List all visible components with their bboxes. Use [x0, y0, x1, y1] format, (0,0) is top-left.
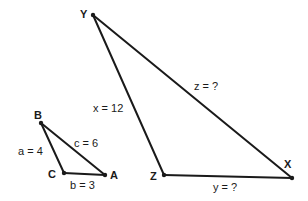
vertex-a-label: A [110, 169, 118, 181]
side-y-label: y = ? [213, 181, 237, 193]
side-b [64, 173, 105, 175]
vertex-c-dot [62, 171, 66, 175]
vertex-c-label: C [48, 168, 56, 180]
side-a [41, 123, 64, 173]
vertex-x-label: X [284, 158, 292, 170]
small-triangle: B C A a = 4 b = 3 c = 6 [18, 109, 118, 191]
side-z [93, 15, 292, 178]
side-b-label: b = 3 [70, 179, 95, 191]
vertex-z-label: Z [150, 170, 157, 182]
large-triangle: Y Z X x = 12 y = ? z = ? [80, 8, 294, 193]
side-x [93, 15, 164, 175]
side-a-label: a = 4 [18, 145, 43, 157]
vertex-y-dot [91, 13, 95, 17]
vertex-z-dot [162, 173, 166, 177]
vertex-a-dot [103, 173, 107, 177]
side-c-label: c = 6 [74, 137, 98, 149]
similar-triangles-diagram: B C A a = 4 b = 3 c = 6 Y Z X x = 12 y =… [0, 0, 308, 201]
vertex-b-label: B [34, 109, 42, 121]
vertex-b-dot [39, 121, 43, 125]
vertex-x-dot [290, 176, 294, 180]
side-x-label: x = 12 [93, 102, 123, 114]
side-y [164, 175, 292, 178]
vertex-y-label: Y [80, 8, 88, 20]
side-z-label: z = ? [194, 80, 218, 92]
